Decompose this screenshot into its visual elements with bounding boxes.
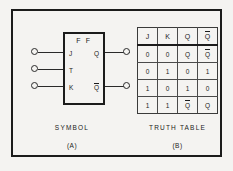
caption-symbol: SYMBOL xyxy=(13,124,131,131)
cell-j: 0 xyxy=(138,45,158,63)
cell-qbar-text: 0 xyxy=(206,85,210,92)
header-cell-j: J xyxy=(138,28,158,46)
header-cell-qbar: Q xyxy=(198,28,218,46)
cell-k: 1 xyxy=(158,63,178,80)
cell-k: 0 xyxy=(158,80,178,97)
input-wire-t xyxy=(38,69,63,70)
cell-q: 1 xyxy=(178,80,198,97)
table-row: 0 0 Q Q xyxy=(138,45,218,63)
cell-qbar: 0 xyxy=(198,80,218,97)
truth-table: J K Q Q 0 0 Q Q 0 1 0 1 xyxy=(137,27,218,114)
input-wire-k xyxy=(38,86,63,87)
table-header-row: J K Q Q xyxy=(138,28,218,46)
pin-label-q-text: Q xyxy=(94,50,99,57)
cell-qbar: Q xyxy=(198,97,218,114)
pin-label-qbar-text: Q xyxy=(94,84,99,91)
symbol-diagram: F F J T K Q Q SYMBOL (A) xyxy=(13,11,131,159)
cell-q-text: 0 xyxy=(186,68,190,75)
caption-a: (A) xyxy=(13,142,131,149)
header-cell-q: Q xyxy=(178,28,198,46)
table-row: 1 1 Q Q xyxy=(138,97,218,114)
table-row: 0 1 0 1 xyxy=(138,63,218,80)
header-cell-k: K xyxy=(158,28,178,46)
cell-q-text: Q xyxy=(185,51,190,58)
cell-qbar-text: 1 xyxy=(206,68,210,75)
input-wire-j xyxy=(38,52,63,53)
pin-label-k: K xyxy=(69,84,73,91)
cell-k-text: 0 xyxy=(166,85,170,92)
output-terminal-qbar[interactable] xyxy=(123,82,130,89)
header-q-text: Q xyxy=(185,33,190,40)
cell-q: Q xyxy=(178,97,198,114)
jk-flip-flop-figure: F F J T K Q Q SYMBOL (A) J K Q xyxy=(0,0,233,171)
cell-q-text: Q xyxy=(185,102,190,109)
header-k-text: K xyxy=(165,33,170,40)
cell-j-text: 1 xyxy=(146,102,150,109)
input-terminal-t[interactable] xyxy=(31,65,38,72)
cell-qbar-text: Q xyxy=(205,51,210,58)
cell-k-text: 0 xyxy=(166,51,170,58)
pin-label-j: J xyxy=(69,50,72,57)
input-terminal-k[interactable] xyxy=(31,82,38,89)
header-qbar-text: Q xyxy=(205,33,210,40)
cell-j-text: 0 xyxy=(146,68,150,75)
input-terminal-j[interactable] xyxy=(31,48,38,55)
flip-flop-label: F F xyxy=(65,37,103,44)
cell-qbar: Q xyxy=(198,45,218,63)
flip-flop-box[interactable]: F F J T K Q Q xyxy=(63,32,105,105)
cell-j: 1 xyxy=(138,97,158,114)
cell-q-text: 1 xyxy=(186,85,190,92)
cell-k-text: 1 xyxy=(166,68,170,75)
pin-label-qbar: Q xyxy=(94,84,99,91)
cell-k-text: 1 xyxy=(166,102,170,109)
output-terminal-q[interactable] xyxy=(123,48,130,55)
cell-j: 0 xyxy=(138,63,158,80)
figure-frame: F F J T K Q Q SYMBOL (A) J K Q xyxy=(11,9,222,157)
table-row: 1 0 1 0 xyxy=(138,80,218,97)
pin-label-q: Q xyxy=(94,50,99,57)
cell-j-text: 1 xyxy=(146,85,150,92)
cell-k: 1 xyxy=(158,97,178,114)
cell-k: 0 xyxy=(158,45,178,63)
caption-b: (B) xyxy=(131,142,224,149)
caption-truth-table: TRUTH TABLE xyxy=(131,124,224,131)
cell-j: 1 xyxy=(138,80,158,97)
cell-qbar: 1 xyxy=(198,63,218,80)
cell-j-text: 0 xyxy=(146,51,150,58)
cell-q: 0 xyxy=(178,63,198,80)
cell-q: Q xyxy=(178,45,198,63)
header-j-text: J xyxy=(146,33,150,40)
pin-label-t: T xyxy=(69,67,73,74)
cell-qbar-text: Q xyxy=(205,102,210,109)
truth-table-section: J K Q Q 0 0 Q Q 0 1 0 1 xyxy=(131,11,224,159)
